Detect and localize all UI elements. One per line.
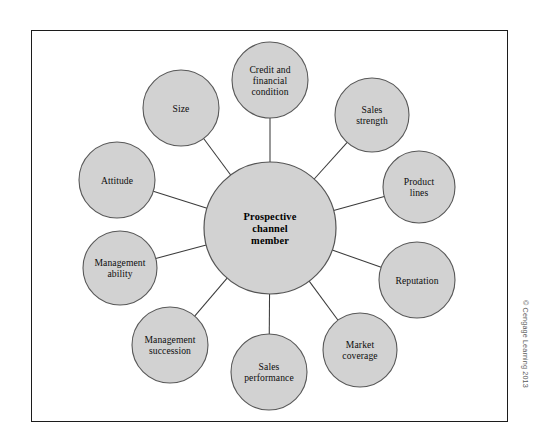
spoke-reputation bbox=[332, 250, 381, 267]
spoke-market-coverage bbox=[309, 281, 338, 320]
spoke-management-ability bbox=[156, 245, 206, 258]
copyright-credit: © Cengage Learning 2013 bbox=[512, 300, 530, 430]
node-credit-and-financial-condition[interactable]: Credit andfinancialcondition bbox=[232, 42, 308, 118]
spoke-sales-strength bbox=[314, 142, 347, 179]
node-product-lines[interactable]: Productlines bbox=[383, 151, 455, 223]
node-market-coverage[interactable]: Marketcoverage bbox=[323, 313, 397, 387]
nodes-group: Credit andfinancialconditionSalesstrengt… bbox=[79, 42, 455, 410]
spoke-attitude bbox=[153, 191, 207, 208]
node-label-management-succession: Managementsuccession bbox=[144, 334, 195, 356]
node-size[interactable]: Size bbox=[143, 70, 219, 146]
node-prospective-channel-member[interactable]: Prospectivechannelmember bbox=[204, 162, 336, 294]
spoke-product-lines bbox=[334, 197, 385, 211]
node-label-credit-and-financial-condition: Credit andfinancialcondition bbox=[249, 64, 290, 97]
node-label-size: Size bbox=[173, 103, 190, 114]
node-label-reputation: Reputation bbox=[395, 275, 438, 286]
spoke-management-succession bbox=[195, 278, 227, 316]
copyright-credit-text: © Cengage Learning 2013 bbox=[516, 300, 530, 430]
node-sales-performance[interactable]: Salesperformance bbox=[231, 334, 307, 410]
node-sales-strength[interactable]: Salesstrength bbox=[335, 78, 409, 152]
node-management-ability[interactable]: Managementability bbox=[83, 231, 157, 305]
node-attitude[interactable]: Attitude bbox=[79, 142, 155, 218]
spoke-size bbox=[204, 139, 231, 175]
radial-diagram: Credit andfinancialconditionSalesstrengt… bbox=[0, 0, 539, 445]
node-reputation[interactable]: Reputation bbox=[379, 242, 455, 318]
node-management-succession[interactable]: Managementsuccession bbox=[132, 307, 208, 383]
figure-canvas: Credit andfinancialconditionSalesstrengt… bbox=[0, 0, 539, 445]
node-label-market-coverage: Marketcoverage bbox=[342, 339, 377, 361]
node-label-attitude: Attitude bbox=[101, 175, 133, 186]
